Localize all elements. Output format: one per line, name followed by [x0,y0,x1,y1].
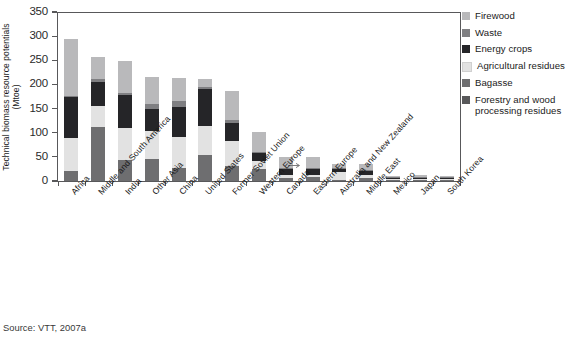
bar-segment [198,155,212,175]
legend-swatch-icon [462,79,470,87]
bar-segment [306,157,320,169]
source-caption: Source: VTT, 2007a [3,322,86,333]
legend-swatch-icon [462,29,470,37]
bar-segment [64,171,78,181]
legend-label: Firewood [475,10,515,21]
bar-segment [64,97,78,138]
legend-label: Agricultural residues [477,60,565,71]
legend-label: Energy crops [475,43,532,54]
bar-segment [64,39,78,95]
bar-series-group [58,12,460,181]
bar-segment [118,61,132,92]
y-tick-label: 150 [29,102,48,114]
y-tick-label: 100 [29,126,48,138]
legend-label: Bagasse [475,77,513,88]
bar-segment [198,89,212,126]
bar-column[interactable] [198,79,212,181]
y-axis-ticks: 050100150200250300350 [0,12,57,182]
legend-swatch-icon [462,96,470,104]
bar-segment [252,132,266,152]
legend-swatch-icon [462,12,470,20]
y-tick-label: 50 [36,150,48,162]
chart-legend: FirewoodWasteEnergy cropsAgricultural re… [462,10,574,121]
bar-segment [91,127,105,175]
bar-segment [172,107,186,137]
y-tick-label: 300 [29,29,48,41]
bar-segment [145,159,159,176]
bar-segment [91,82,105,106]
y-tick-label: 250 [29,53,48,65]
bar-segment [145,77,159,104]
bar-segment [91,106,105,127]
figure-container: Technical biomass resource potentials (M… [0,0,574,338]
bar-segment [198,79,212,87]
legend-item[interactable]: Waste [462,27,574,38]
bar-segment [198,126,212,155]
legend-item[interactable]: Bagasse [462,77,574,88]
legend-item[interactable]: Firewood [462,10,574,21]
bar-segment [225,91,239,120]
legend-item[interactable]: Agricultural residues [462,60,574,72]
legend-item[interactable]: Energy crops [462,43,574,54]
bar-segment [91,57,105,79]
y-tick-label: 350 [29,5,48,17]
bar-segment [64,138,78,171]
bar-segment [225,123,239,141]
legend-item[interactable]: Forestry and wood processing residues [462,94,574,116]
x-axis-labels: AfricaMiddle and South AmericaIndiaOther… [0,186,470,316]
legend-swatch-icon [462,62,472,72]
bar-segment [118,95,132,128]
legend-label: Waste [475,27,502,38]
legend-label: Forestry and wood processing residues [475,94,574,116]
bar-column[interactable] [91,57,105,181]
legend-swatch-icon [462,45,470,53]
y-tick-label: 200 [29,77,48,89]
bar-column[interactable] [64,39,78,181]
bar-segment [172,78,186,101]
y-tick-label: 0 [42,174,48,186]
